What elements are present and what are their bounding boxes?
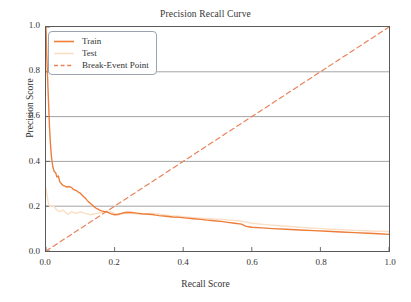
chart-legend: Train Test Break-Event Point bbox=[48, 31, 157, 75]
legend-label-train: Train bbox=[82, 36, 101, 47]
legend-item-test[interactable]: Test bbox=[53, 47, 149, 59]
legend-swatch-break-event-point bbox=[53, 60, 75, 71]
y-tick-label: 0.8 bbox=[0, 65, 40, 75]
x-tick-label: 0.2 bbox=[94, 257, 134, 267]
y-tick-label: 0.2 bbox=[0, 201, 40, 211]
legend-swatch-train bbox=[53, 36, 75, 47]
y-tick-label: 0.6 bbox=[0, 110, 40, 120]
legend-label-break-event-point: Break-Event Point bbox=[82, 60, 149, 71]
legend-item-break-event-point[interactable]: Break-Event Point bbox=[53, 59, 149, 71]
legend-swatch-test bbox=[53, 48, 75, 59]
x-tick-label: 0.8 bbox=[301, 257, 341, 267]
chart-title: Precision Recall Curve bbox=[0, 9, 411, 19]
y-tick-label: 1.0 bbox=[0, 20, 40, 30]
x-tick-label: 0.0 bbox=[25, 257, 65, 267]
x-tick-label: 0.4 bbox=[163, 257, 203, 267]
precision-recall-figure: Precision Recall Curve Precision Score R… bbox=[0, 0, 411, 302]
x-axis-label: Recall Score bbox=[0, 279, 411, 289]
legend-label-test: Test bbox=[82, 48, 97, 59]
x-tick-label: 1.0 bbox=[370, 257, 410, 267]
x-tick-label: 0.6 bbox=[232, 257, 272, 267]
legend-item-train[interactable]: Train bbox=[53, 35, 149, 47]
y-tick-label: 0.0 bbox=[0, 246, 40, 256]
y-tick-label: 0.4 bbox=[0, 156, 40, 166]
series-line-test bbox=[46, 188, 389, 231]
